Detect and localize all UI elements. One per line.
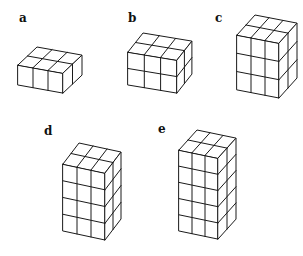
shape-label-c: c <box>215 12 222 24</box>
cube-stack-b <box>128 33 192 93</box>
shape-label-e: e <box>158 123 166 135</box>
cube-stack-c <box>237 15 297 98</box>
shape-label-d: d <box>44 125 52 137</box>
shape-label-b: b <box>128 12 136 24</box>
cube-stacks-figure: a b c d e <box>0 0 303 256</box>
cube-stack-a <box>18 47 82 93</box>
cube-stack-d <box>63 143 121 240</box>
cube-stack-e <box>179 130 236 239</box>
shape-label-a: a <box>19 12 27 24</box>
